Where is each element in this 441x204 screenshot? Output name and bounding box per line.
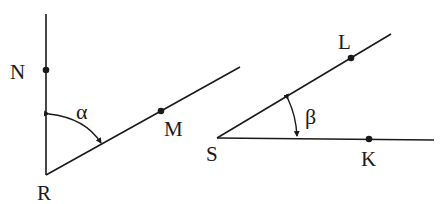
- label-L: L: [338, 30, 351, 54]
- angle-alpha-arc: [49, 114, 101, 143]
- angle-diagram: N M R α L K S β: [0, 0, 441, 204]
- ray-SL: [217, 34, 391, 138]
- label-M: M: [164, 117, 183, 141]
- label-beta: β: [305, 104, 316, 129]
- point-N: [43, 67, 50, 74]
- label-K: K: [361, 147, 376, 171]
- label-S: S: [206, 142, 218, 166]
- point-L: [348, 55, 355, 62]
- diagram-svg: N M R α L K S β: [0, 0, 441, 204]
- ray-SK: [217, 138, 434, 140]
- point-M: [158, 108, 165, 115]
- angle-beta-arc: [288, 99, 297, 136]
- point-K: [366, 136, 373, 143]
- label-alpha: α: [76, 99, 88, 124]
- label-N: N: [10, 60, 25, 84]
- label-R: R: [37, 181, 51, 204]
- angle-LSK: L K S β: [206, 30, 434, 171]
- angle-NRM: N M R α: [10, 14, 240, 204]
